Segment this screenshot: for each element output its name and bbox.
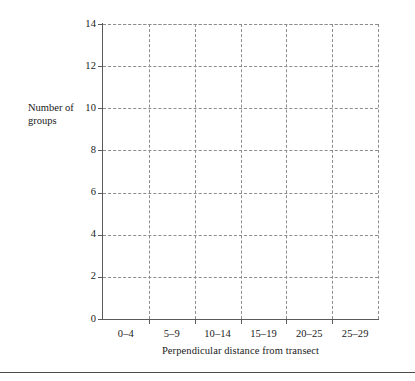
y-tick-mark-4: [98, 235, 102, 236]
y-tick-label-6: 6: [74, 187, 96, 198]
x-tick-mark-3: [241, 320, 242, 324]
y-tick-label-8: 8: [74, 145, 96, 156]
y-tick-mark-8: [98, 150, 102, 151]
plot-border-right: [378, 24, 379, 319]
gridline-vertical-3: [241, 24, 242, 319]
y-tick-label-0-wrap: 0: [70, 314, 96, 325]
y-tick-mark-0: [98, 319, 102, 320]
y-tick-mark-6: [98, 193, 102, 194]
y-tick-label-12-wrap: 12: [70, 61, 96, 72]
y-tick-mark-10: [98, 108, 102, 109]
y-tick-label-6-wrap: 6: [70, 187, 96, 198]
y-axis-title: Number of groups: [28, 101, 96, 127]
x-tick-label-25-29: 25–29: [325, 328, 385, 339]
page-bottom-rule: [0, 372, 415, 373]
x-tick-mark-4: [286, 320, 287, 324]
y-axis-title-line-1: Number of: [28, 101, 96, 114]
y-tick-label-2: 2: [74, 271, 96, 282]
y-axis-line: [102, 23, 103, 320]
gridline-vertical-1: [149, 24, 150, 319]
x-tick-mark-1: [149, 320, 150, 324]
y-tick-label-2-wrap: 2: [70, 271, 96, 282]
y-tick-mark-2: [98, 277, 102, 278]
y-axis-title-line-2: groups: [28, 114, 96, 127]
y-tick-label-14-wrap: 14: [70, 19, 96, 30]
y-tick-label-14: 14: [74, 19, 96, 30]
figure-container: 14 12 10 8 6 4 2 0 0–4 5–9 10–14 15–19 2…: [0, 0, 415, 381]
y-tick-label-4: 4: [74, 229, 96, 240]
y-tick-label-0: 0: [74, 314, 96, 325]
gridline-vertical-5: [332, 24, 333, 319]
y-tick-label-12: 12: [74, 61, 96, 72]
y-tick-mark-12: [98, 66, 102, 67]
gridline-vertical-2: [195, 24, 196, 319]
y-tick-label-8-wrap: 8: [70, 145, 96, 156]
x-tick-mark-5: [332, 320, 333, 324]
gridline-vertical-4: [286, 24, 287, 319]
y-tick-label-4-wrap: 4: [70, 229, 96, 240]
x-axis-title: Perpendicular distance from transect: [103, 345, 378, 357]
x-tick-mark-2: [195, 320, 196, 324]
y-tick-mark-14: [98, 24, 102, 25]
